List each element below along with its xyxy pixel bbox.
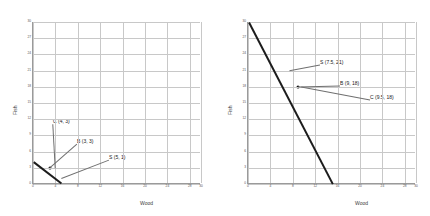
gridline-horizontal (33, 168, 200, 169)
y-tick-label: 21 (27, 69, 31, 72)
gridline-horizontal (33, 135, 200, 136)
gridline-vertical (382, 22, 383, 183)
gridline-horizontal (33, 87, 200, 88)
gridline-horizontal (33, 71, 200, 72)
gridline-vertical (293, 22, 294, 183)
x-tick-label: 0 (247, 185, 249, 188)
y-tick-label: 27 (242, 37, 246, 40)
x-tick-label: 8 (77, 185, 79, 188)
y-tick-label: 6 (244, 150, 246, 153)
x-tick-label: 28 (188, 185, 192, 188)
x-tick-label: 30 (414, 185, 418, 188)
y-axis-title-left: Fish (12, 106, 18, 115)
y-tick-label: 0 (244, 182, 246, 185)
gridline-horizontal (248, 152, 415, 153)
gridline-horizontal (248, 38, 415, 39)
gridline-horizontal (248, 135, 415, 136)
gridline-vertical (405, 22, 406, 183)
annotation-B-right: B (9, 18) (340, 81, 359, 86)
y-tick-label: 24 (27, 53, 31, 56)
gridline-vertical (360, 22, 361, 183)
y-tick-label: 3 (244, 166, 246, 169)
chart-panel-right: Fish Wood S (7.5, 21) B (9, 18) C (9.5, … (215, 0, 430, 216)
y-tick-label: 18 (27, 85, 31, 88)
annotation-S-right: S (7.5, 21) (320, 60, 343, 65)
x-tick-label: 4 (55, 185, 57, 188)
gridline-vertical (55, 22, 56, 183)
x-tick-label: 16 (121, 185, 125, 188)
gridline-vertical (248, 22, 249, 183)
x-tick-label: 12 (98, 185, 102, 188)
x-tick-label: 4 (270, 185, 272, 188)
y-tick-label: 30 (27, 20, 31, 23)
x-tick-label: 12 (313, 185, 317, 188)
gridline-vertical (315, 22, 316, 183)
gridline-horizontal (33, 184, 200, 185)
x-axis-title-right: Wood (355, 200, 368, 206)
gridline-horizontal (248, 119, 415, 120)
gridline-horizontal (33, 152, 200, 153)
chart-panel-left: Fish Wood C (4, 3) B (3, 3) S (5, 1) 036… (0, 0, 215, 216)
y-tick-label: 27 (27, 37, 31, 40)
y-tick-label: 15 (27, 101, 31, 104)
annotation-B-left: B (3, 3) (77, 139, 93, 144)
figure-two-panel-ppf: Fish Wood C (4, 3) B (3, 3) S (5, 1) 036… (0, 0, 430, 216)
gridline-horizontal (248, 87, 415, 88)
gridline-horizontal (33, 119, 200, 120)
ppf-line-segment (33, 162, 62, 185)
gridline-horizontal (248, 168, 415, 169)
plot-area-left: C (4, 3) B (3, 3) S (5, 1) 0369121518212… (32, 22, 200, 184)
gridline-vertical (338, 22, 339, 183)
x-tick-label: 24 (166, 185, 170, 188)
gridline-vertical (416, 22, 417, 183)
x-tick-label: 0 (32, 185, 34, 188)
gridline-vertical (78, 22, 79, 183)
gridline-vertical (123, 22, 124, 183)
gridline-vertical (201, 22, 202, 183)
y-tick-label: 24 (242, 53, 246, 56)
y-tick-label: 9 (244, 134, 246, 137)
x-tick-label: 20 (143, 185, 147, 188)
y-tick-label: 18 (242, 85, 246, 88)
gridline-vertical (270, 22, 271, 183)
gridline-horizontal (248, 22, 415, 23)
gridline-horizontal (248, 103, 415, 104)
plot-area-right: S (7.5, 21) B (9, 18) C (9.5, 18) 036912… (247, 22, 415, 184)
y-tick-label: 21 (242, 69, 246, 72)
gridline-vertical (167, 22, 168, 183)
x-tick-label: 16 (336, 185, 340, 188)
x-axis-title-left: Wood (140, 200, 153, 206)
gridline-vertical (33, 22, 34, 183)
x-tick-label: 8 (292, 185, 294, 188)
annotation-leader-line (61, 160, 109, 179)
x-tick-label: 30 (199, 185, 203, 188)
gridline-horizontal (248, 54, 415, 55)
gridline-horizontal (33, 103, 200, 104)
y-tick-label: 6 (29, 150, 31, 153)
gridline-vertical (145, 22, 146, 183)
y-tick-label: 12 (27, 118, 31, 121)
y-tick-label: 15 (242, 101, 246, 104)
y-axis-title-right: Fish (227, 106, 233, 115)
gridline-horizontal (33, 22, 200, 23)
y-tick-label: 3 (29, 166, 31, 169)
gridline-vertical (190, 22, 191, 183)
y-tick-label: 30 (242, 20, 246, 23)
y-tick-label: 9 (29, 134, 31, 137)
x-tick-label: 24 (381, 185, 385, 188)
gridline-horizontal (33, 38, 200, 39)
y-tick-label: 0 (29, 182, 31, 185)
y-tick-label: 12 (242, 118, 246, 121)
gridline-horizontal (33, 54, 200, 55)
x-tick-label: 28 (403, 185, 407, 188)
gridline-vertical (100, 22, 101, 183)
x-tick-label: 20 (358, 185, 362, 188)
